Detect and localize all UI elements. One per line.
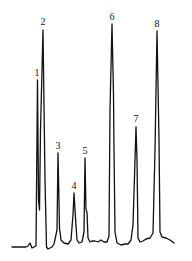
- peak-label-4: 4: [72, 181, 77, 191]
- chromatogram-trace: [12, 24, 174, 249]
- chromatogram-chart: [0, 0, 192, 261]
- peak-label-8: 8: [155, 19, 160, 29]
- peak-label-3: 3: [56, 141, 61, 151]
- peak-label-1: 1: [35, 68, 40, 78]
- peak-label-2: 2: [41, 17, 46, 27]
- peak-label-6: 6: [110, 12, 115, 22]
- peak-label-7: 7: [134, 114, 139, 124]
- peak-label-5: 5: [83, 146, 88, 156]
